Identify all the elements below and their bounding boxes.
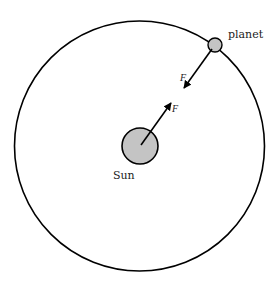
sun-body [122, 128, 158, 164]
planet-label: planet [228, 28, 264, 41]
force-label-sun: F [171, 103, 179, 114]
force-label-planet: F [179, 72, 187, 83]
planet-body [208, 38, 222, 52]
force-arrow-on-planet [184, 49, 212, 88]
orbit-diagram: planet Sun F F [0, 0, 272, 287]
sun-label: Sun [113, 169, 135, 182]
